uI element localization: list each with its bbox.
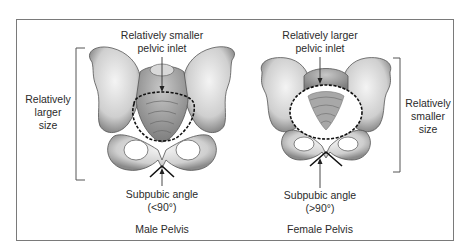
male-size-bracket [76, 48, 85, 180]
female-angle-label: Subpubic angle (>90°) [270, 189, 370, 215]
female-inlet-label-line2: pelvic inlet [270, 42, 370, 55]
female-angle-arrow [318, 158, 323, 188]
male-angle-label: Subpubic angle (<90°) [112, 188, 212, 214]
female-size-label-line2: smaller [401, 110, 455, 123]
female-size-bracket [393, 58, 400, 172]
female-size-label-line3: size [401, 123, 455, 136]
male-inlet-label-line1: Relatively smaller [112, 29, 212, 42]
male-caption: Male Pelvis [112, 223, 212, 236]
male-size-label-line2: larger [20, 106, 76, 119]
female-angle-label-text: Subpubic angle [270, 189, 370, 202]
female-size-label-line1: Relatively [401, 97, 455, 110]
female-size-label: Relatively smaller size [401, 97, 455, 136]
male-angle-label-text: Subpubic angle [112, 188, 212, 201]
male-inlet-label: Relatively smaller pelvic inlet [112, 29, 212, 55]
female-inlet-label: Relatively larger pelvic inlet [270, 29, 370, 55]
female-caption: Female Pelvis [270, 223, 370, 236]
male-size-label-line3: size [20, 119, 76, 132]
male-size-label: Relatively larger size [20, 93, 76, 132]
male-size-label-line1: Relatively [20, 93, 76, 106]
female-inlet-label-line1: Relatively larger [270, 29, 370, 42]
male-inlet-label-line2: pelvic inlet [112, 42, 212, 55]
female-angle-value: (>90°) [270, 202, 370, 215]
male-angle-value: (<90°) [112, 201, 212, 214]
male-angle-arrow [160, 168, 165, 186]
female-pelvis-drawing [261, 58, 391, 166]
